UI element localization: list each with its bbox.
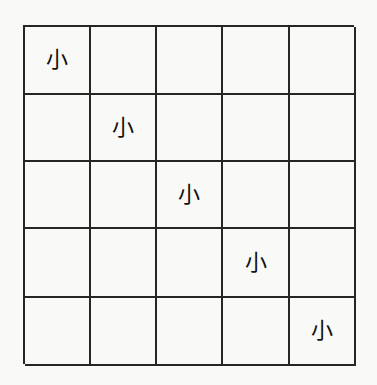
grid-cell-r3-c5 [290, 162, 356, 229]
grid-cell-r1-c1: 小 [25, 27, 91, 95]
grid-cell-r4-c1 [25, 229, 91, 298]
grid-cell-r2-c5 [290, 95, 356, 162]
grid-cell-r2-c3 [157, 95, 223, 162]
grid-cell-r2-c1 [25, 95, 91, 162]
grid-cell-r2-c2: 小 [91, 95, 157, 162]
grid-cell-r5-c3 [157, 298, 223, 366]
grid-cell-r1-c4 [223, 27, 290, 95]
grid-cell-r5-c2 [91, 298, 157, 366]
grid-cell-r3-c1 [25, 162, 91, 229]
grid-cell-r3-c3: 小 [157, 162, 223, 229]
grid-cell-r4-c4: 小 [223, 229, 290, 298]
grid-cell-r4-c3 [157, 229, 223, 298]
grid-cell-r1-c3 [157, 27, 223, 95]
grid-cell-r4-c2 [91, 229, 157, 298]
grid-cell-r5-c5: 小 [290, 298, 356, 366]
grid-cell-r5-c4 [223, 298, 290, 366]
character-grid: 小 小 小 小 小 [23, 25, 354, 364]
grid-cell-r2-c4 [223, 95, 290, 162]
grid-cell-r3-c2 [91, 162, 157, 229]
grid-cell-r1-c2 [91, 27, 157, 95]
diagram-canvas: 小 小 小 小 小 [0, 0, 377, 385]
grid-cell-r3-c4 [223, 162, 290, 229]
grid-cell-r5-c1 [25, 298, 91, 366]
grid-cell-r1-c5 [290, 27, 356, 95]
grid-cell-r4-c5 [290, 229, 356, 298]
